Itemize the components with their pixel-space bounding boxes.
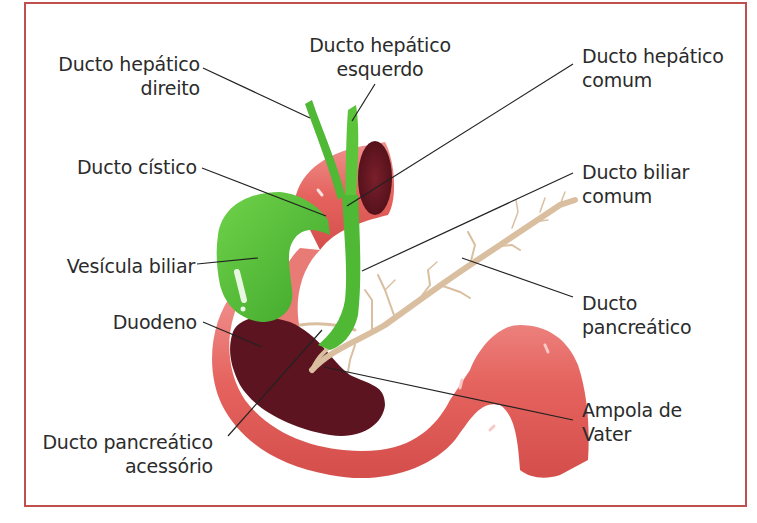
label-left-hepatic-duct: Ducto hepático esquerdo: [302, 33, 458, 81]
label-accessory-pancreatic-duct: Ducto pancreático acessório: [42, 430, 213, 478]
label-line: comum: [582, 184, 689, 208]
label-duodenum: Duodeno: [113, 310, 197, 334]
leader-right-hepatic: [203, 68, 310, 118]
leader-left-hepatic: [352, 84, 375, 121]
label-ampulla-of-vater: Ampola de Vater: [582, 398, 682, 446]
label-line: Duodeno: [113, 310, 197, 334]
leader-common-hepatic: [347, 64, 573, 206]
duodenum-cut-end: [358, 141, 392, 215]
left-hepatic-duct: [345, 105, 358, 203]
label-line: Ducto hepático: [582, 44, 724, 68]
label-line: Ducto hepático: [302, 33, 458, 57]
label-line: direito: [58, 76, 200, 100]
label-line: Ducto biliar: [582, 160, 689, 184]
label-right-hepatic-duct: Ducto hepático direito: [58, 52, 200, 100]
label-line: Ducto: [582, 291, 692, 315]
label-line: esquerdo: [302, 57, 458, 81]
label-line: Ampola de: [582, 398, 682, 422]
label-gallbladder: Vesícula biliar: [67, 254, 195, 278]
label-line: Ducto cístico: [77, 155, 197, 179]
label-line: Ducto hepático: [58, 52, 200, 76]
label-line: acessório: [42, 454, 213, 478]
label-line: comum: [582, 68, 724, 92]
label-common-hepatic-duct: Ducto hepático comum: [582, 44, 724, 92]
label-cystic-duct: Ducto cístico: [77, 155, 197, 179]
label-pancreatic-duct: Ducto pancreático: [582, 291, 692, 339]
label-line: pancreático: [582, 315, 692, 339]
label-line: Ducto pancreático: [42, 430, 213, 454]
leader-pancreatic: [462, 258, 573, 297]
label-line: Vesícula biliar: [67, 254, 195, 278]
label-common-bile-duct: Ducto biliar comum: [582, 160, 689, 208]
label-line: Vater: [582, 422, 682, 446]
